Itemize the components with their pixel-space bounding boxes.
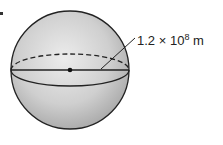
radius-label: 1.2 × 108 m [137,33,204,48]
radius-unit: m [193,33,204,48]
times-symbol: × [159,33,167,48]
radius-exponent: 8 [184,32,189,42]
radius-coefficient: 1.2 [137,33,155,48]
center-point [68,68,73,73]
radius-base: 10 [170,33,184,48]
sphere-diagram [0,0,223,145]
